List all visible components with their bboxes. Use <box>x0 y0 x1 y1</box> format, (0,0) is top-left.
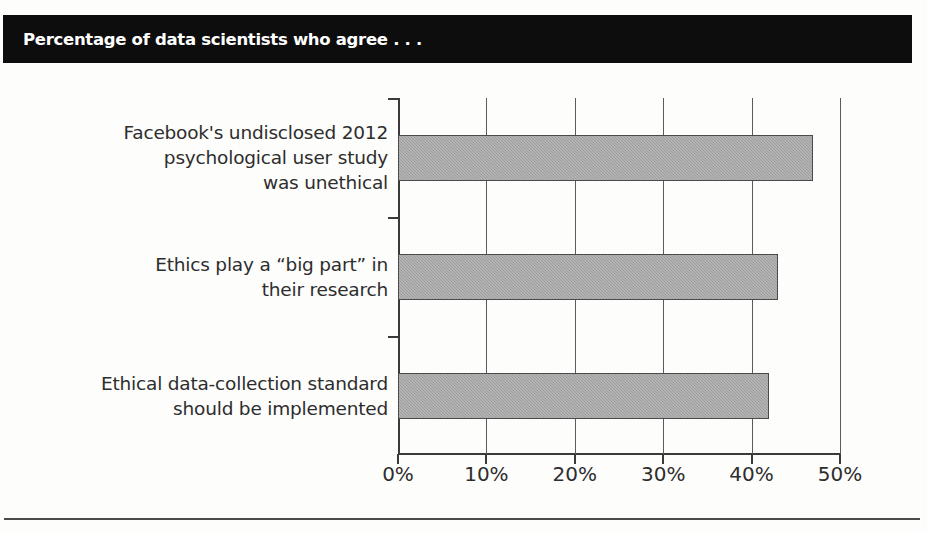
plot-area <box>398 98 840 455</box>
x-axis-line <box>398 453 840 455</box>
bar <box>398 135 813 181</box>
category-label-line: Facebook's undisclosed 2012 <box>8 120 388 145</box>
x-axis-tick-label: 30% <box>641 462 685 486</box>
x-axis-tick-label: 10% <box>464 462 508 486</box>
category-label-line: should be implemented <box>8 396 388 421</box>
category-label: Facebook's undisclosed 2012psychological… <box>8 120 388 195</box>
category-label-line: was unethical <box>8 170 388 195</box>
category-label-line: Ethics play a “big part” in <box>8 252 388 277</box>
bar <box>398 254 778 300</box>
category-label-line: Ethical data-collection standard <box>8 371 388 396</box>
category-tick <box>388 336 399 338</box>
gridline <box>840 98 841 455</box>
category-label-line: psychological user study <box>8 145 388 170</box>
x-axis-tick-label: 40% <box>729 462 773 486</box>
x-axis-tick-label: 0% <box>382 462 414 486</box>
chart-figure: Percentage of data scientists who agree … <box>0 0 927 533</box>
category-label: Ethics play a “big part” intheir researc… <box>8 252 388 302</box>
category-label-line: their research <box>8 277 388 302</box>
category-label: Ethical data-collection standardshould b… <box>8 371 388 421</box>
x-axis-tick-label: 20% <box>553 462 597 486</box>
footer-divider <box>4 518 920 520</box>
category-tick <box>388 217 399 219</box>
page-title: Percentage of data scientists who agree … <box>23 30 422 49</box>
y-axis-top-cap <box>388 98 400 100</box>
x-axis-tick-labels: 0%10%20%30%40%50% <box>398 462 840 492</box>
chart-title-banner: Percentage of data scientists who agree … <box>3 15 912 63</box>
x-axis-tick-label: 50% <box>818 462 862 486</box>
bar <box>398 373 769 419</box>
